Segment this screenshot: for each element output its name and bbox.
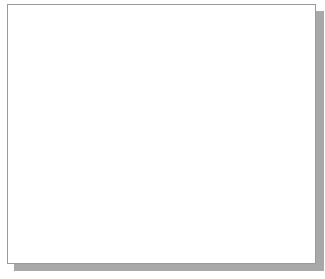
drawing-canvas[interactable]	[0, 0, 325, 279]
